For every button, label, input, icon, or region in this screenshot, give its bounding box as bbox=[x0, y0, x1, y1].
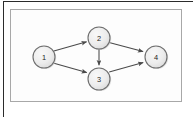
figure-root: 1 2 3 4 bbox=[0, 0, 193, 117]
edge-3-to-4 bbox=[109, 63, 143, 72]
graph-node-2[interactable]: 2 bbox=[88, 27, 111, 50]
diagram-panel: 1 2 3 4 bbox=[10, 9, 182, 102]
edge-1-to-2 bbox=[54, 42, 87, 51]
edge-1-to-3 bbox=[54, 63, 87, 72]
node-group: 1 2 3 4 bbox=[33, 27, 168, 91]
graph-node-3-label: 3 bbox=[97, 75, 101, 84]
graph-node-1[interactable]: 1 bbox=[33, 46, 56, 69]
graph-node-3[interactable]: 3 bbox=[88, 68, 111, 91]
graph-node-1-label: 1 bbox=[42, 53, 46, 62]
directed-graph: 1 2 3 4 bbox=[11, 10, 182, 102]
graph-node-4[interactable]: 4 bbox=[145, 46, 168, 69]
graph-node-2-label: 2 bbox=[97, 34, 101, 43]
graph-node-4-label: 4 bbox=[154, 53, 158, 62]
edge-2-to-4 bbox=[109, 42, 143, 51]
